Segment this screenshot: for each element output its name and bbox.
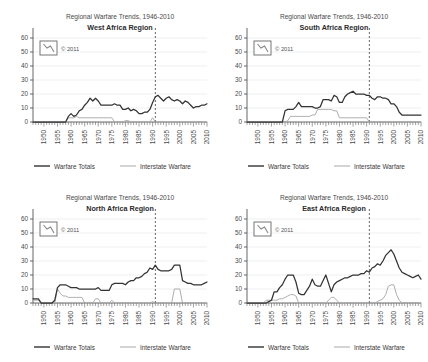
copyright-label: © 2011 (61, 46, 79, 52)
y-tick-label: 20 (21, 90, 29, 97)
x-tick-label: 1960 (281, 311, 288, 326)
x-tick-label: 2005 (190, 130, 197, 145)
y-axis: 0102030405060 (21, 209, 33, 306)
x-axis: 1950195519601965197019751980198519901995… (247, 303, 424, 325)
y-tick-label: 10 (21, 285, 29, 292)
y-tick-label: 10 (235, 104, 243, 111)
y-tick-label: 50 (21, 229, 29, 236)
x-axis: 1950195519601965197019751980198519901995… (33, 303, 210, 325)
x-tick-label: 1980 (336, 311, 343, 326)
x-tick-label: 2000 (176, 311, 183, 326)
y-tick-label: 20 (235, 271, 243, 278)
y-tick-label: 30 (21, 257, 29, 264)
x-tick-label: 2005 (404, 130, 411, 145)
x-tick-label: 2000 (176, 130, 183, 145)
x-tick-label: 1955 (54, 311, 61, 326)
x-tick-label: 1995 (163, 311, 170, 326)
legend-label-0: Warfare Totals (268, 344, 309, 351)
x-tick-label: 1950 (254, 130, 261, 145)
x-tick-label: 1975 (322, 311, 329, 326)
y-tick-label: 30 (21, 76, 29, 83)
x-tick-label: 2010 (203, 130, 210, 145)
x-tick-label: 1985 (349, 130, 356, 145)
y-tick-label: 10 (235, 285, 243, 292)
y-tick-label: 30 (235, 257, 243, 264)
series-group (247, 91, 421, 122)
y-tick-label: 40 (21, 243, 29, 250)
series-line-interstate-warfare (247, 109, 421, 122)
x-tick-label: 1980 (336, 130, 343, 145)
y-tick-label: 60 (21, 34, 29, 41)
x-tick-label: 1985 (349, 311, 356, 326)
x-tick-label: 1950 (254, 311, 261, 326)
chart-subtitle: South Africa Region (300, 23, 369, 32)
x-tick-label: 2005 (404, 311, 411, 326)
x-tick-label: 2010 (203, 311, 210, 326)
x-tick-label: 1990 (363, 130, 370, 145)
y-tick-label: 50 (21, 48, 29, 55)
csp-logo (254, 222, 271, 236)
x-tick-label: 1985 (135, 311, 142, 326)
y-tick-label: 40 (235, 62, 243, 69)
csp-logo (254, 41, 271, 55)
x-tick-label: 1955 (268, 311, 275, 326)
x-tick-label: 1960 (281, 130, 288, 145)
y-tick-label: 20 (21, 271, 29, 278)
x-tick-label: 1990 (149, 130, 156, 145)
chart-subtitle: East Africa Region (302, 204, 366, 213)
x-tick-label: 1955 (54, 130, 61, 145)
x-tick-label: 1980 (122, 311, 129, 326)
y-axis: 0102030405060 (235, 28, 247, 125)
csp-logo (40, 41, 57, 55)
gridlines (247, 38, 421, 108)
x-tick-label: 1975 (108, 311, 115, 326)
chart-panel-top-left: Regional Warfare Trends, 1946-2010West A… (0, 0, 214, 181)
x-tick-label: 1955 (268, 130, 275, 145)
x-tick-label: 2000 (390, 130, 397, 145)
y-tick-label: 40 (235, 243, 243, 250)
x-tick-label: 2010 (417, 311, 424, 326)
x-tick-label: 2010 (417, 130, 424, 145)
series-line-warfare-totals (33, 95, 207, 122)
logo-group: © 2011 (254, 41, 293, 55)
x-tick-label: 1975 (108, 130, 115, 145)
y-axis: 0102030405060 (21, 28, 33, 125)
logo-group: © 2011 (40, 222, 79, 236)
x-tick-label: 1950 (40, 130, 47, 145)
chart-title: Regional Warfare Trends, 1946-2010 (66, 13, 175, 21)
y-tick-label: 30 (235, 76, 243, 83)
x-tick-label: 1980 (122, 130, 129, 145)
copyright-label: © 2011 (275, 46, 293, 52)
x-tick-label: 1970 (309, 130, 316, 145)
series-line-warfare-totals (247, 250, 421, 303)
gridlines (247, 219, 421, 289)
chart-subtitle: North Africa Region (86, 204, 154, 213)
legend-label-1: Interstate Warfare (354, 344, 405, 351)
series-line-interstate-warfare (33, 116, 207, 122)
legend-label-0: Warfare Totals (268, 163, 309, 170)
x-tick-label: 1995 (377, 311, 384, 326)
legend: Warfare TotalsInterstate Warfare (248, 163, 405, 170)
x-tick-label: 1995 (163, 130, 170, 145)
chart-subtitle: West Africa Region (87, 23, 153, 32)
legend: Warfare TotalsInterstate Warfare (34, 344, 191, 351)
logo-group: © 2011 (40, 41, 79, 55)
y-tick-label: 0 (238, 118, 242, 125)
y-tick-label: 10 (21, 104, 29, 111)
gridlines (33, 219, 207, 289)
y-tick-label: 0 (24, 118, 28, 125)
x-tick-label: 1965 (295, 130, 302, 145)
legend: Warfare TotalsInterstate Warfare (248, 344, 405, 351)
x-tick-label: 1975 (322, 130, 329, 145)
x-tick-label: 1990 (149, 311, 156, 326)
csp-logo (40, 222, 57, 236)
x-tick-label: 1960 (67, 311, 74, 326)
gridlines (33, 38, 207, 108)
x-tick-label: 1970 (95, 311, 102, 326)
logo-group: © 2011 (254, 222, 293, 236)
copyright-label: © 2011 (61, 227, 79, 233)
y-tick-label: 50 (235, 229, 243, 236)
legend-label-1: Interstate Warfare (140, 163, 191, 170)
x-axis: 1950195519601965197019751980198519901995… (247, 122, 424, 144)
series-line-warfare-totals (247, 91, 421, 122)
